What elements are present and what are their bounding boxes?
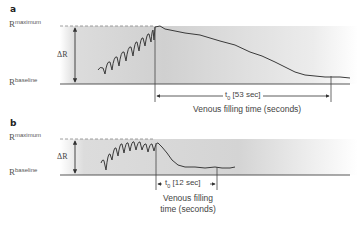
panel-a-r-maximum-label: Rmaximum [9, 19, 41, 29]
panel-b-xlabel-line2: time (seconds) [156, 204, 220, 215]
panel-a-xlabel: Venous filling time (seconds) [193, 104, 301, 115]
panel-a-t0-label: t0 [53 sec] [223, 90, 263, 101]
panel-a-t0-value: [53 sec] [233, 90, 261, 99]
r-max-superscript: maximum [15, 132, 41, 138]
panel-b-r-baseline-label: Rbaseline [9, 167, 37, 177]
r-max-superscript: maximum [15, 19, 41, 25]
panel-a-shaded-area [60, 26, 358, 84]
panel-a-label: a [10, 4, 16, 14]
t-subscript: 0 [227, 95, 230, 101]
panel-b-xlabel-line1: Venous filling [156, 193, 220, 204]
r-base-superscript: baseline [15, 167, 37, 173]
panel-a-delta-r-label: ΔR [57, 50, 67, 59]
panel-a-chart [60, 26, 358, 102]
panel-b-shaded-area [60, 139, 358, 175]
panel-b-t0-label: t0 [12 sec] [163, 178, 203, 189]
panel-b-xlabel: Venous filling time (seconds) [156, 193, 220, 215]
t-subscript: 0 [167, 183, 170, 189]
figure-graphics [0, 0, 358, 225]
panel-b-label: b [10, 118, 16, 128]
panel-b-chart [60, 139, 358, 190]
r-base-superscript: baseline [15, 77, 37, 83]
panel-b-t0-value: [12 sec] [173, 178, 201, 187]
panel-a-r-baseline-label: Rbaseline [9, 77, 37, 87]
panel-b-r-maximum-label: Rmaximum [9, 132, 41, 142]
panel-b-delta-r-label: ΔR [57, 152, 67, 161]
